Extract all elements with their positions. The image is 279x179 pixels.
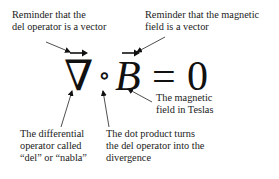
arrow-to-field-symbol (128, 89, 152, 102)
arrow-to-dot (103, 91, 109, 127)
arrow-to-nabla (61, 91, 72, 127)
arrow-to-field-vector (137, 37, 165, 52)
leader-arrows (0, 0, 279, 179)
arrow-to-nabla-vector (46, 42, 70, 52)
